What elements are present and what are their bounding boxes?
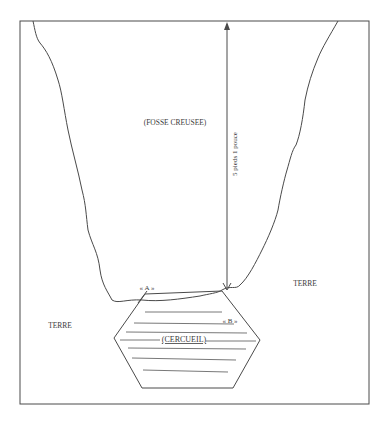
- frame-border: [20, 21, 369, 404]
- pit-outline: [33, 21, 338, 302]
- earth-left-label: TERRE: [48, 321, 72, 330]
- earth-right-label: TERRE: [293, 279, 317, 288]
- point-a-pointer: [138, 291, 147, 303]
- coffin-label: (CERCUEIL): [162, 335, 207, 344]
- grave-diagram: (FOSSE CREUSEE) 5 pieds 1 pouce TERRE TE…: [0, 0, 388, 421]
- arrow-head-top-icon: [224, 22, 230, 30]
- depth-label: 5 pieds 1 pouce: [231, 132, 239, 176]
- pit-label: (FOSSE CREUSEE): [144, 118, 207, 127]
- point-a-label: « A »: [140, 284, 155, 292]
- point-b-label: « B »: [222, 317, 238, 325]
